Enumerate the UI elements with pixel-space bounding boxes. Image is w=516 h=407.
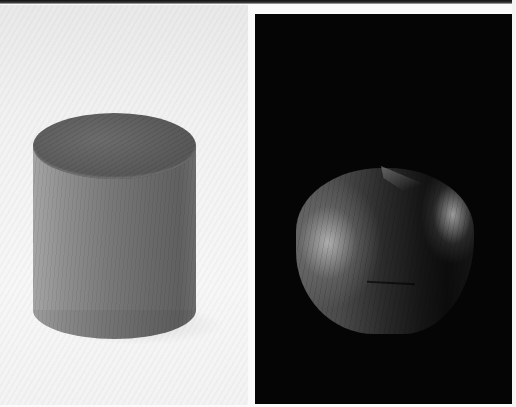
- photo-right-wooden-dome: [255, 14, 512, 404]
- top-border-strip: [0, 0, 512, 4]
- right-margin: [512, 0, 516, 407]
- cylinder-top-face: [33, 113, 196, 179]
- dome-object: [296, 168, 474, 334]
- photo-left-wooden-cylinder: [0, 5, 248, 405]
